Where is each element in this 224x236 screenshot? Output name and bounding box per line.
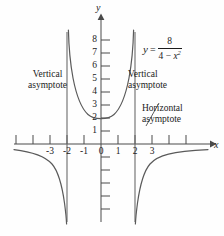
- axes-group: [14, 14, 217, 223]
- curve-left-branch: [14, 150, 67, 224]
- graph-canvas: [0, 0, 224, 236]
- function-graph-figure: y = 8 4 − x2 y x Vertical asymptote Vert…: [0, 0, 224, 236]
- x-tick-label: 0: [93, 146, 109, 156]
- annotation-vertical-asymptote-left: Vertical asymptote: [28, 69, 67, 90]
- x-tick-label: 1: [110, 146, 126, 156]
- annotation-vertical-asymptote-right: Vertical asymptote: [128, 69, 167, 90]
- y-tick-label: 8: [85, 34, 97, 44]
- equation-fraction: 8 4 − x2: [158, 37, 182, 61]
- x-tick-label: -2: [59, 146, 75, 156]
- y-tick-label: 2: [85, 112, 97, 122]
- y-axis-ticks-negative: [101, 157, 110, 209]
- y-axis-label: y: [96, 2, 100, 13]
- equation-denominator-exponent: 2: [178, 49, 181, 56]
- annotation-line-2: asymptote: [28, 80, 67, 91]
- x-axis-label: x: [214, 139, 218, 150]
- annotation-line-2: asymptote: [142, 114, 183, 125]
- y-tick-label: 5: [85, 73, 97, 83]
- equation-numerator: 8: [164, 37, 175, 48]
- equation-lhs: y: [143, 43, 148, 55]
- y-tick-label: 3: [85, 99, 97, 109]
- annotation-line-2: asymptote: [128, 80, 167, 91]
- y-tick-label: 1: [85, 125, 97, 135]
- equation-denominator: 4 − x2: [158, 49, 182, 62]
- equation-label: y = 8 4 − x2: [143, 37, 182, 61]
- annotation-line-1: Horizontal: [142, 103, 183, 114]
- annotation-line-1: Vertical: [28, 69, 67, 80]
- x-tick-label: 2: [127, 146, 143, 156]
- x-tick-label: -3: [42, 146, 58, 156]
- x-tick-label: -1: [76, 146, 92, 156]
- curve-right-branch: [135, 150, 208, 224]
- equation-denominator-text: 4 −: [159, 51, 174, 61]
- x-tick-label: 3: [144, 146, 160, 156]
- y-axis-arrowhead: [98, 14, 105, 21]
- y-tick-label: 7: [85, 47, 97, 57]
- y-tick-label: 6: [85, 60, 97, 70]
- annotation-horizontal-asymptote: Horizontal asymptote: [142, 103, 183, 124]
- y-tick-label: 4: [85, 86, 97, 96]
- equation-equals: =: [150, 44, 156, 55]
- annotation-line-1: Vertical: [128, 69, 167, 80]
